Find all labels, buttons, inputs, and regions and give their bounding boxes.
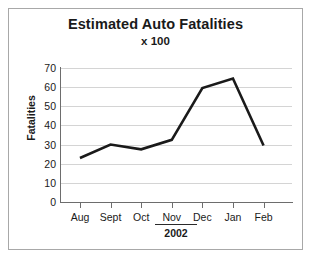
y-axis-tick-label: 0	[32, 197, 56, 208]
gridline	[61, 202, 292, 203]
y-axis-tick-label: 10	[32, 178, 56, 189]
x-axis-tick	[202, 203, 203, 208]
x-axis-tick	[172, 203, 173, 208]
x-axis-tick	[141, 203, 142, 208]
x-axis-tick	[233, 203, 234, 208]
x-axis-year-label: 2002	[152, 227, 200, 239]
y-axis-tick-labels: 706050403020100	[28, 0, 56, 258]
plot-area	[61, 68, 292, 202]
y-axis-tick-label: 40	[32, 120, 56, 131]
x-axis-tick-label: Feb	[244, 211, 284, 223]
x-axis-tick	[264, 203, 265, 208]
x-axis-tick	[111, 203, 112, 208]
y-axis-tick-label: 50	[32, 101, 56, 112]
y-axis-tick-label: 30	[32, 140, 56, 151]
x-axis-tick	[80, 203, 81, 208]
year-rule	[155, 224, 197, 225]
y-axis-tick-label: 20	[32, 159, 56, 170]
y-axis-tick-label: 60	[32, 82, 56, 93]
chart-figure: Estimated Auto Fatalities x 100 Fataliti…	[0, 0, 311, 258]
data-series-line	[61, 68, 292, 202]
x-axis-year-group: 2002	[152, 224, 200, 239]
y-axis-tick-label: 70	[32, 63, 56, 74]
